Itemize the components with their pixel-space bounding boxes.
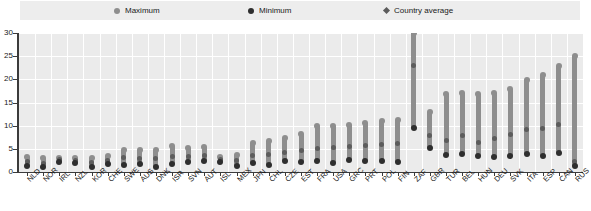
range-bar — [572, 56, 577, 167]
vertical-gridline — [83, 33, 84, 172]
vertical-gridline — [67, 33, 68, 172]
data-point-country-average — [250, 153, 255, 158]
range-bar — [460, 93, 465, 154]
data-point-minimum — [491, 154, 497, 160]
range-bar — [444, 94, 449, 155]
y-axis-tick-label: 30 — [4, 29, 13, 37]
data-point-country-average — [299, 148, 304, 153]
range-bar — [524, 80, 529, 155]
data-point-minimum — [153, 164, 159, 170]
vertical-gridline — [116, 33, 117, 172]
data-point-country-average — [282, 150, 287, 155]
chart-plot-wrapper: 051015202530 NLDNORIRLNZLKORCHESWEAUSDNK… — [0, 24, 588, 211]
vertical-gridline — [341, 33, 342, 172]
y-axis-tick — [13, 103, 17, 104]
data-point-country-average — [476, 140, 481, 145]
data-point-maximum — [427, 109, 433, 115]
range-bar — [540, 75, 545, 157]
range-bar — [411, 33, 416, 128]
range-bar — [492, 93, 497, 157]
data-point-minimum — [250, 160, 256, 166]
y-axis-tick — [13, 149, 17, 150]
legend-marker-maximum-icon — [114, 8, 120, 14]
data-point-maximum — [459, 90, 465, 96]
data-point-minimum — [346, 157, 352, 163]
vertical-gridline — [438, 33, 439, 172]
legend-marker-country-average-icon — [383, 7, 390, 14]
data-point-country-average — [170, 154, 175, 159]
range-bar — [508, 89, 513, 156]
vertical-gridline — [164, 33, 165, 172]
gridline — [19, 103, 583, 104]
y-axis-tick-label: 20 — [4, 75, 13, 83]
y-axis-tick — [13, 172, 17, 173]
data-point-country-average — [315, 146, 320, 151]
data-point-minimum — [217, 159, 223, 165]
vertical-gridline — [519, 33, 520, 172]
data-point-minimum — [266, 162, 272, 168]
chart-legend: Maximum Minimum Country average — [20, 1, 580, 20]
range-bar — [315, 126, 320, 161]
data-point-minimum — [330, 160, 336, 166]
data-point-minimum — [540, 153, 546, 159]
data-point-maximum — [121, 147, 127, 153]
legend-marker-minimum-icon — [248, 8, 254, 14]
vertical-gridline — [228, 33, 229, 172]
data-point-minimum — [459, 151, 465, 157]
data-point-maximum — [234, 152, 240, 158]
legend-label-country-average: Country average — [394, 7, 453, 15]
vertical-gridline — [35, 33, 36, 172]
data-point-minimum — [234, 163, 240, 169]
vertical-gridline — [212, 33, 213, 172]
data-point-minimum — [443, 152, 449, 158]
vertical-gridline — [454, 33, 455, 172]
gridline — [19, 33, 583, 34]
range-bar — [379, 121, 384, 161]
vertical-gridline — [502, 33, 503, 172]
range-bar — [363, 123, 368, 161]
data-point-maximum — [475, 91, 481, 97]
data-point-maximum — [540, 72, 546, 78]
data-point-minimum — [427, 145, 433, 151]
data-point-maximum — [201, 144, 207, 150]
vertical-gridline — [470, 33, 471, 172]
vertical-gridline — [277, 33, 278, 172]
range-bar — [347, 125, 352, 160]
data-point-country-average — [347, 144, 352, 149]
vertical-gridline — [357, 33, 358, 172]
data-point-minimum — [56, 159, 62, 165]
data-point-maximum — [282, 135, 288, 141]
data-point-minimum — [314, 158, 320, 164]
data-point-minimum — [379, 158, 385, 164]
range-bar — [427, 112, 432, 149]
vertical-gridline — [374, 33, 375, 172]
data-point-minimum — [40, 164, 46, 170]
data-point-minimum — [475, 153, 481, 159]
data-point-minimum — [507, 153, 513, 159]
y-axis-tick — [13, 126, 17, 127]
vertical-gridline — [261, 33, 262, 172]
legend-item-maximum: Maximum — [114, 7, 160, 15]
vertical-gridline — [245, 33, 246, 172]
vertical-gridline — [422, 33, 423, 172]
legend-item-country-average: Country average — [384, 7, 453, 15]
vertical-gridline — [551, 33, 552, 172]
data-point-minimum — [524, 151, 530, 157]
y-axis-tick — [13, 79, 17, 80]
vertical-gridline — [486, 33, 487, 172]
range-bar — [556, 66, 561, 153]
data-point-minimum — [201, 158, 207, 164]
data-point-minimum — [89, 164, 95, 170]
data-point-minimum — [185, 159, 191, 165]
gridline — [19, 126, 583, 127]
y-axis-tick — [13, 56, 17, 57]
data-point-maximum — [250, 140, 256, 146]
data-point-minimum — [411, 125, 417, 131]
vertical-gridline — [51, 33, 52, 172]
y-axis-tick-label: 15 — [4, 99, 13, 107]
gridline — [19, 79, 583, 80]
vertical-gridline — [180, 33, 181, 172]
vertical-gridline — [293, 33, 294, 172]
data-point-minimum — [121, 162, 127, 168]
data-point-maximum — [379, 118, 385, 124]
